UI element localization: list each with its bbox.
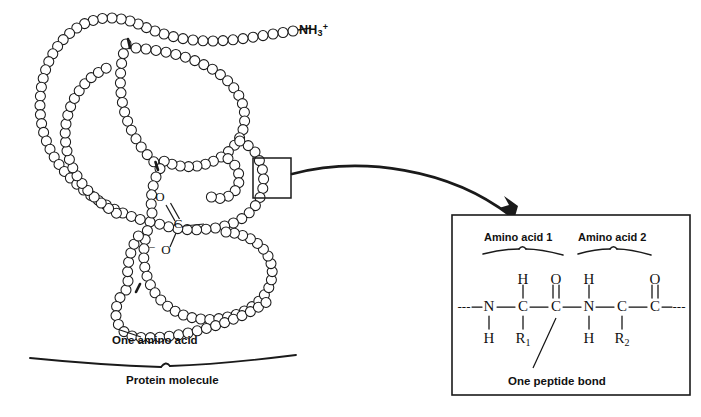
backbone-ellipsis-right: --- (669, 300, 689, 313)
backbone-atom-c4: C (645, 299, 665, 314)
one-amino-acid-label: One amino acid (112, 334, 198, 346)
protein-peptide-diagram: O C O – (0, 0, 701, 417)
protein-molecule-brace (30, 355, 296, 367)
protein-bead-chain (35, 13, 298, 343)
backbone-atom-h-top-2: H (579, 272, 599, 287)
carboxyl-oxygen-anion-atom: O (161, 242, 170, 257)
amino-acid-1-label: Amino acid 1 (484, 231, 552, 243)
amino-acid-2-label: Amino acid 2 (578, 231, 646, 243)
carboxyl-oxygen-double-atom: O (155, 189, 164, 204)
backbone-atom-o-top-2: O (645, 272, 665, 287)
backbone-atom-c3: C (612, 299, 632, 314)
backbone-atom-h-bottom-2: H (579, 331, 599, 346)
one-peptide-bond-label: One peptide bond (508, 375, 606, 387)
backbone-atom-c1: C (513, 299, 533, 314)
backbone-atom-h-top-1: H (513, 272, 533, 287)
n-terminus-label: NH3+ (299, 22, 328, 38)
protein-molecule-label: Protein molecule (126, 374, 219, 386)
backbone-atom-r2: R2 (612, 331, 632, 348)
carboxyl-carbon-atom: C (174, 216, 183, 231)
carboxyl-negative-charge: – (148, 240, 155, 252)
backbone-atom-n1: N (479, 299, 499, 314)
backbone-atom-n2: N (579, 299, 599, 314)
backbone-atom-h-bottom-1: H (479, 331, 499, 346)
backbone-atom-o-top-1: O (546, 272, 566, 287)
backbone-atom-c2: C (546, 299, 566, 314)
callout-arrow (292, 166, 518, 220)
backbone-ellipsis-left: --- (454, 300, 474, 313)
backbone-atom-r1: R1 (513, 331, 533, 348)
